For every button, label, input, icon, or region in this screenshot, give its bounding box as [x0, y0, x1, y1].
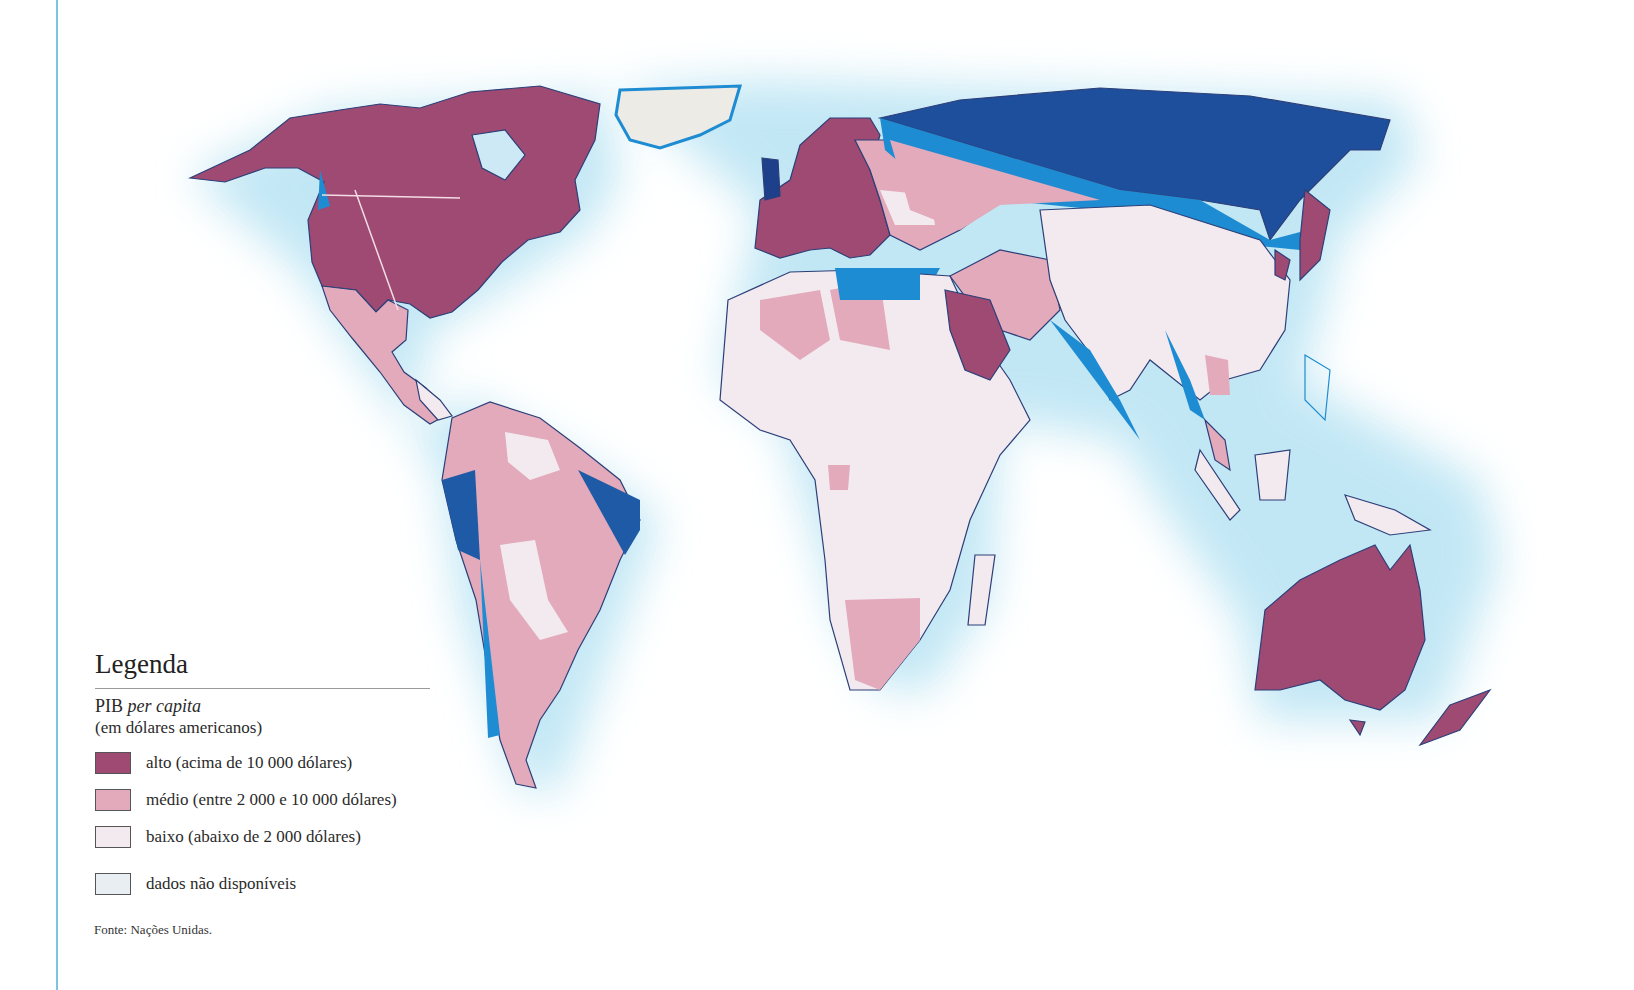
- legend-item-baixo: baixo (abaixo de 2 000 dólares): [95, 825, 435, 849]
- legend-swatch-baixo: [95, 826, 131, 848]
- legend-item-alto: alto (acima de 10 000 dólares): [95, 751, 435, 775]
- legend-swatch-alto: [95, 752, 131, 774]
- legend-swatch-nd: [95, 873, 131, 895]
- legend-subtitle: PIB per capita: [95, 695, 435, 717]
- legend-item-medio: médio (entre 2 000 e 10 000 dólares): [95, 788, 435, 812]
- source-note: Fonte: Nações Unidas.: [94, 922, 212, 938]
- legend-subtitle-italic: per capita: [128, 696, 202, 716]
- legend-label-medio: médio (entre 2 000 e 10 000 dólares): [146, 789, 397, 811]
- legend-item-nd: dados não disponíveis: [95, 872, 435, 896]
- legend-label-nd: dados não disponíveis: [146, 873, 296, 895]
- legend-unit: (em dólares americanos): [95, 717, 435, 738]
- legend-title: Legenda: [95, 648, 435, 680]
- legend-swatch-medio: [95, 789, 131, 811]
- legend-label-baixo: baixo (abaixo de 2 000 dólares): [146, 826, 361, 848]
- legend-subtitle-prefix: PIB: [95, 696, 128, 716]
- legend-divider: [95, 688, 430, 689]
- legend-label-alto: alto (acima de 10 000 dólares): [146, 752, 352, 774]
- legend: Legenda PIB per capita (em dólares ameri…: [95, 648, 435, 896]
